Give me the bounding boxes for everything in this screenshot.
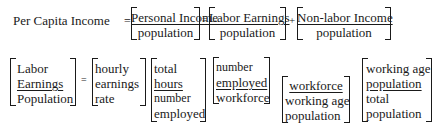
personal-income-denominator: population bbox=[131, 26, 200, 39]
labor-earnings-numerator: Labor Earnings bbox=[209, 11, 286, 24]
labor-earnings-fraction: Labor Earnings population bbox=[209, 7, 286, 40]
term-line: rate bbox=[95, 91, 139, 106]
personal-income-numerator: Personal Income bbox=[131, 11, 200, 24]
hourly-earnings-rate-factor: hourly earnings rate bbox=[92, 58, 146, 106]
term-line: total bbox=[366, 91, 431, 106]
personal-income-fraction: Personal Income population bbox=[131, 7, 200, 40]
term-line: number bbox=[154, 91, 205, 106]
hours-per-employed-factor: total hours number employed bbox=[151, 58, 206, 122]
term-line: hourly bbox=[95, 61, 139, 76]
labor-earnings-per-population-term: Labor Earnings Population bbox=[10, 58, 76, 106]
term-line: population bbox=[366, 106, 431, 121]
equals-sign: = bbox=[81, 75, 87, 85]
term-line: population bbox=[285, 108, 350, 123]
term-line: population bbox=[366, 76, 431, 91]
term-line: earnings bbox=[95, 76, 139, 91]
labor-earnings-denominator: population bbox=[209, 26, 286, 39]
term-line: Earnings bbox=[17, 76, 73, 91]
participation-rate-factor: workforce working age population bbox=[282, 76, 350, 123]
non-labor-income-denominator: population bbox=[297, 26, 391, 39]
non-labor-income-fraction: Non-labor Income population bbox=[297, 7, 391, 40]
term-line: working age bbox=[366, 61, 431, 76]
equals-sign: = bbox=[124, 15, 131, 27]
term-line: hours bbox=[154, 76, 205, 91]
term-line: number bbox=[216, 60, 269, 75]
per-capita-income-label: Per Capita Income bbox=[13, 14, 110, 27]
term-line: Labor bbox=[17, 61, 73, 76]
working-age-share-factor: working age population total population bbox=[362, 58, 432, 122]
term-line: employed bbox=[216, 75, 269, 90]
term-line: working age bbox=[285, 93, 350, 108]
term-line: employed bbox=[154, 106, 205, 121]
employment-rate-factor: number employed workforce bbox=[213, 57, 270, 104]
term-line: workforce bbox=[285, 78, 347, 93]
term-line: workforce bbox=[216, 90, 269, 105]
term-line: total bbox=[154, 61, 205, 76]
non-labor-income-numerator: Non-labor Income bbox=[297, 11, 391, 24]
plus-sign: + bbox=[289, 15, 295, 26]
term-line: Population bbox=[17, 91, 73, 106]
equals-sign: = bbox=[202, 15, 208, 25]
